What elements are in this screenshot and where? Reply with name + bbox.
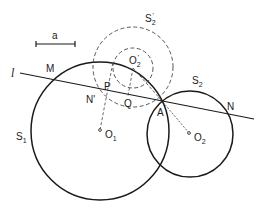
radius-o2prime-q bbox=[128, 68, 133, 96]
svg-text:O2: O2 bbox=[194, 132, 206, 145]
svg-text:O2': O2' bbox=[129, 54, 141, 68]
label-m: M bbox=[46, 63, 54, 74]
label-s1: S1 bbox=[16, 131, 27, 144]
label-n: N bbox=[227, 101, 234, 112]
label-o1: O1 bbox=[105, 129, 117, 142]
label-o2: O2 bbox=[194, 132, 206, 145]
label-q: Q bbox=[124, 98, 132, 109]
center-o1 bbox=[99, 129, 102, 132]
radius-o1-p bbox=[100, 62, 113, 130]
center-o2 bbox=[188, 132, 191, 135]
geometry-diagram: a l S2' O2' S2 S1 O1 O2 M N N' P Q A bbox=[0, 0, 267, 212]
label-n-prime: N' bbox=[86, 94, 95, 105]
label-p: P bbox=[104, 81, 111, 92]
svg-text:S1: S1 bbox=[16, 131, 27, 144]
line-l-label: l bbox=[11, 66, 15, 80]
svg-text:O1: O1 bbox=[105, 129, 117, 142]
label-o2-prime: O2' bbox=[129, 54, 141, 68]
label-a: A bbox=[157, 107, 164, 118]
label-s2-prime: S2' bbox=[145, 12, 156, 26]
svg-text:S2: S2 bbox=[192, 75, 203, 88]
label-s2: S2 bbox=[192, 75, 203, 88]
scale-bar: a bbox=[36, 30, 75, 47]
scale-bar-label: a bbox=[52, 30, 58, 41]
svg-text:S2': S2' bbox=[145, 12, 156, 26]
line-l bbox=[20, 73, 254, 119]
